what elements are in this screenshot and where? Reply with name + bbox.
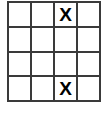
cell-mark-x: X xyxy=(59,79,72,98)
grid-cell[interactable] xyxy=(78,53,101,78)
grid-cell[interactable] xyxy=(32,77,55,102)
puzzle-canvas: XX xyxy=(0,0,105,118)
puzzle-grid: XX xyxy=(7,1,101,102)
grid-cell[interactable] xyxy=(55,28,78,53)
grid-cell[interactable] xyxy=(9,28,32,53)
grid-cell[interactable] xyxy=(9,53,32,78)
grid-cell[interactable] xyxy=(32,53,55,78)
grid-cell[interactable] xyxy=(9,77,32,102)
grid-cell[interactable] xyxy=(9,3,32,28)
grid-cell[interactable]: X xyxy=(55,77,78,102)
grid-cell[interactable] xyxy=(32,28,55,53)
grid-cell[interactable]: X xyxy=(55,3,78,28)
grid-cell[interactable] xyxy=(32,3,55,28)
grid-cell[interactable] xyxy=(55,53,78,78)
grid-cell[interactable] xyxy=(78,77,101,102)
grid-cell[interactable] xyxy=(78,3,101,28)
cell-mark-x: X xyxy=(59,4,72,23)
grid-cell[interactable] xyxy=(78,28,101,53)
